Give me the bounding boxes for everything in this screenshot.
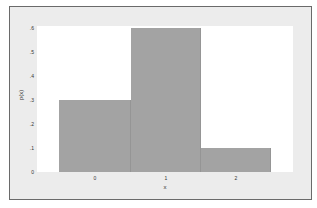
y-tick-label: .3 bbox=[24, 97, 34, 103]
bar-2 bbox=[201, 148, 271, 172]
y-tick-label: .4 bbox=[24, 73, 34, 79]
bar-0 bbox=[59, 100, 131, 172]
y-axis-label: p(x) bbox=[18, 90, 24, 100]
bar-1 bbox=[131, 28, 201, 172]
x-tick-label: 2 bbox=[235, 175, 238, 181]
y-tick-label: .6 bbox=[24, 25, 34, 31]
y-tick-label: 0 bbox=[24, 169, 34, 175]
x-axis-label: x bbox=[164, 184, 167, 190]
y-tick-label: .5 bbox=[24, 49, 34, 55]
x-tick-label: 0 bbox=[94, 175, 97, 181]
x-tick-label: 1 bbox=[165, 175, 168, 181]
y-tick-label: .2 bbox=[24, 121, 34, 127]
y-tick-label: .1 bbox=[24, 145, 34, 151]
